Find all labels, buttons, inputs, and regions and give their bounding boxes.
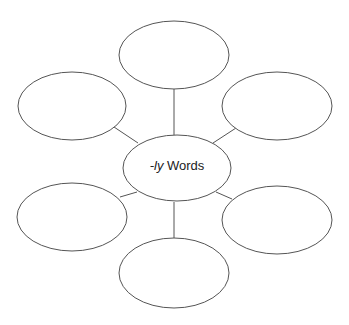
- connector-lower-left: [120, 192, 137, 197]
- node-upper-right: [222, 72, 332, 140]
- connector-upper-left: [114, 127, 138, 143]
- connector-lower-right: [216, 192, 232, 199]
- connector-upper-right: [213, 128, 236, 143]
- node-lower-left: [17, 183, 127, 251]
- node-upper-left: [18, 72, 126, 140]
- node-lower-right: [222, 186, 332, 254]
- center-label-suffix: -ly: [150, 158, 164, 173]
- node-bottom: [119, 238, 229, 308]
- node-top: [119, 21, 229, 89]
- center-label: -ly Words: [123, 158, 231, 173]
- word-web-diagram: -ly Words: [0, 0, 349, 325]
- center-label-word: Words: [163, 158, 204, 173]
